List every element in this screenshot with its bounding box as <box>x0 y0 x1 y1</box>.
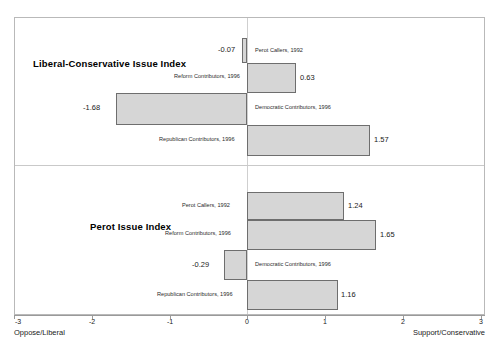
bar-value-top-perot-callers: -0.07 <box>218 45 235 54</box>
x-axis-tick-label-neg1: -1 <box>167 318 173 325</box>
bar-category-bottom-democratic-contributors: Democratic Contributors, 1996 <box>255 261 331 267</box>
bar-top-democratic-contributors <box>116 93 247 125</box>
panel-title-liberal-conservative: Liberal-Conservative Issue Index <box>33 58 186 69</box>
axis-end-label-support-conservative: Support/Conservative <box>413 328 485 337</box>
chart-plot-frame: Liberal-Conservative Issue Index -0.07 P… <box>14 17 485 315</box>
bar-value-top-republican-contributors: 1.57 <box>374 135 389 144</box>
bar-value-top-democratic-contributors: -1.68 <box>83 103 100 112</box>
bar-category-top-democratic-contributors: Democratic Contributors, 1996 <box>255 104 331 110</box>
x-axis-tick-label-neg3: -3 <box>15 318 21 325</box>
bar-top-republican-contributors <box>247 125 370 156</box>
bar-bottom-perot-callers <box>247 192 344 220</box>
bar-top-perot-callers <box>242 38 247 63</box>
axis-end-label-oppose-liberal: Oppose/Liberal <box>14 328 65 337</box>
x-axis-tick-label-neg2: -2 <box>89 318 95 325</box>
bar-value-bottom-democratic-contributors: -0.29 <box>192 260 209 269</box>
bar-value-bottom-reform-contributors: 1.65 <box>380 230 395 239</box>
panel-title-perot-issue-index: Perot Issue Index <box>90 221 171 232</box>
bar-category-bottom-reform-contributors: Reform Contributors, 1996 <box>165 230 231 236</box>
x-axis <box>14 315 485 316</box>
bar-value-bottom-perot-callers: 1.24 <box>348 201 363 210</box>
bar-bottom-republican-contributors <box>247 280 338 310</box>
x-axis-tick-label-pos3: 3 <box>479 318 483 325</box>
panel-divider <box>15 165 484 166</box>
bar-category-top-perot-callers: Perot Callers, 1992 <box>255 47 303 53</box>
bar-bottom-democratic-contributors <box>224 250 247 280</box>
bar-value-bottom-republican-contributors: 1.16 <box>341 290 356 299</box>
bar-category-top-reform-contributors: Reform Contributors, 1996 <box>174 73 240 79</box>
x-axis-tick-label-zero: 0 <box>245 318 249 325</box>
bar-category-bottom-republican-contributors: Republican Contributors, 1996 <box>157 291 233 297</box>
bar-bottom-reform-contributors <box>247 220 376 250</box>
bar-category-top-republican-contributors: Republican Contributors, 1996 <box>159 136 235 142</box>
x-axis-tick-label-pos1: 1 <box>323 318 327 325</box>
x-axis-tick-label-pos2: 2 <box>401 318 405 325</box>
bar-value-top-reform-contributors: 0.63 <box>300 73 315 82</box>
bar-top-reform-contributors <box>247 63 296 93</box>
bar-category-bottom-perot-callers: Perot Callers, 1992 <box>182 202 230 208</box>
